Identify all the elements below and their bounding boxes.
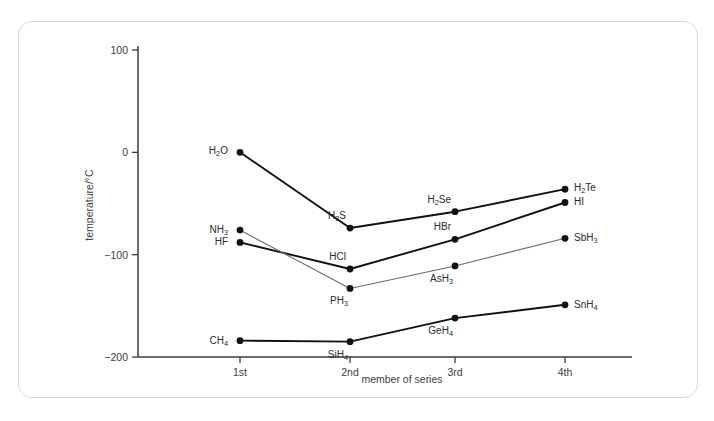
data-point-label: HI (574, 196, 584, 207)
y-tick-label: 0 (122, 146, 128, 158)
data-point-label: HCl (329, 251, 346, 262)
figure-caption (150, 406, 670, 420)
data-point-label: H2S (328, 210, 346, 223)
data-point-marker[interactable] (347, 266, 354, 273)
data-point-marker[interactable] (237, 149, 244, 156)
data-point-marker[interactable] (237, 239, 244, 246)
data-point-marker[interactable] (562, 301, 569, 308)
y-tick-label: 100 (110, 44, 128, 56)
y-axis-ticks: 1000−100−200 (104, 44, 138, 363)
data-point-label: HF (215, 236, 228, 247)
series-points-group (237, 149, 569, 345)
data-point-label: SnH4 (574, 299, 598, 312)
data-point-marker[interactable] (452, 263, 459, 270)
x-tick-label: 2nd (341, 366, 359, 378)
data-point-label: PH3 (330, 295, 348, 308)
data-point-label: H2Se (427, 194, 451, 207)
x-axis-title: member of series (361, 373, 442, 385)
data-point-marker[interactable] (347, 338, 354, 345)
data-point-marker[interactable] (347, 285, 354, 292)
data-point-marker[interactable] (452, 208, 459, 215)
data-point-label: SiH4 (328, 349, 348, 362)
data-point-marker[interactable] (237, 337, 244, 344)
data-point-marker[interactable] (452, 315, 459, 322)
data-point-label: SbH3 (574, 232, 598, 245)
data-point-label: CH4 (209, 335, 228, 348)
y-tick-label: −100 (104, 249, 128, 261)
x-tick-label: 4th (558, 366, 573, 378)
data-point-marker[interactable] (562, 199, 569, 206)
data-point-label: HBr (434, 221, 452, 232)
y-tick-label: −200 (104, 351, 128, 363)
data-point-label: NH3 (209, 224, 228, 237)
x-tick-label: 3rd (447, 366, 462, 378)
chart-axes (138, 46, 632, 357)
data-point-marker[interactable] (237, 227, 244, 234)
data-point-marker[interactable] (452, 236, 459, 243)
hydride-boiling-point-chart: 1000−100−200 1st2nd3rd4th temperature/°C… (0, 0, 714, 421)
data-point-label: H2Te (574, 182, 596, 195)
series-line (240, 202, 565, 269)
data-point-label: AsH3 (430, 273, 453, 286)
data-point-label: H2O (209, 145, 228, 158)
series-line (240, 305, 565, 342)
data-point-marker[interactable] (562, 235, 569, 242)
data-point-marker[interactable] (347, 225, 354, 232)
series-lines-group (240, 152, 565, 341)
series-line (240, 152, 565, 228)
data-point-label: GeH4 (428, 325, 453, 338)
series-line (240, 230, 565, 288)
x-tick-label: 1st (233, 366, 247, 378)
y-axis-title: temperature/°C (83, 169, 95, 241)
data-point-marker[interactable] (562, 186, 569, 193)
